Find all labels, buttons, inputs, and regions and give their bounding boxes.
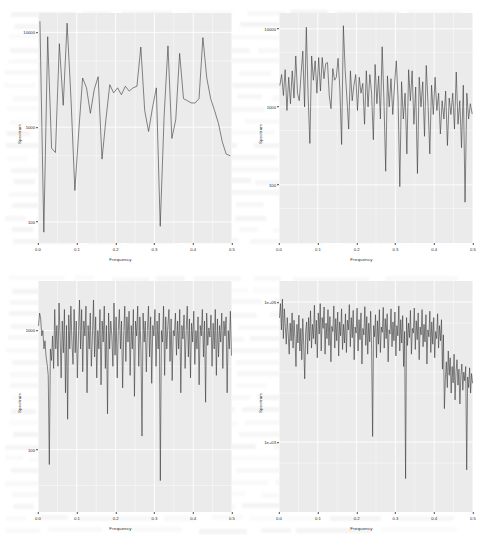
- y-tick-label: 10000: [264, 26, 279, 31]
- plot-area-top-right: 100001000100 0.00.10.20.30.40.5: [279, 13, 473, 243]
- x-axis-label-bottom-left: Frequency: [0, 526, 241, 531]
- x-tick-label: 0.1: [74, 243, 80, 252]
- x-tick-label: 0.0: [276, 243, 282, 252]
- x-tick-label: 0.0: [276, 512, 282, 521]
- x-tick-label: 0.4: [431, 512, 437, 521]
- x-tick-label: 0.5: [470, 243, 476, 252]
- x-tick-label: 0.1: [74, 512, 80, 521]
- x-tick-label: 0.2: [113, 512, 119, 521]
- x-tick-label: 0.3: [151, 512, 157, 521]
- panel-bottom-right: Spectrum 1e+051e+03 0.00.10.20.30.40.5 F…: [241, 268, 482, 537]
- series-plot-top-left: [38, 13, 232, 243]
- x-tick-label: 0.4: [431, 243, 437, 252]
- x-tick-label: 0.0: [35, 512, 41, 521]
- series-plot-bottom-right: [279, 281, 473, 512]
- y-axis-label-bottom-left: Spectrum: [17, 392, 22, 412]
- panel-top-left: Spectrum 100001000100 0.00.10.20.30.40.5…: [0, 0, 241, 268]
- series-plot-bottom-left: [38, 281, 232, 512]
- x-tick-label: 0.3: [151, 243, 157, 252]
- x-axis-label-top-left: Frequency: [0, 257, 241, 262]
- y-axis-label-bottom-right: Spectrum: [258, 392, 263, 412]
- x-tick-label: 0.1: [315, 512, 321, 521]
- spectrum-panel-grid: Spectrum 100001000100 0.00.10.20.30.40.5…: [0, 0, 482, 537]
- panel-top-right: Spectrum 100001000100 0.00.10.20.30.40.5…: [241, 0, 482, 268]
- x-tick-label: 0.5: [229, 243, 235, 252]
- x-tick-label: 0.5: [229, 512, 235, 521]
- y-axis-label-top-left: Spectrum: [17, 124, 22, 144]
- y-tick-label: 1e+05: [264, 300, 279, 305]
- plot-area-bottom-right: 1e+051e+03 0.00.10.20.30.40.5: [279, 281, 473, 512]
- y-tick-label: 1000: [267, 104, 279, 109]
- y-tick-label: 100: [269, 182, 279, 187]
- x-tick-label: 0.3: [392, 512, 398, 521]
- x-tick-label: 0.4: [190, 512, 196, 521]
- x-tick-label: 0.1: [315, 243, 321, 252]
- x-tick-label: 0.2: [354, 243, 360, 252]
- x-axis-label-top-right: Frequency: [241, 257, 482, 262]
- y-tick-label: 100: [28, 219, 38, 224]
- plot-area-top-left: 100001000100 0.00.10.20.30.40.5: [38, 13, 232, 243]
- y-axis-label-top-right: Spectrum: [258, 124, 263, 144]
- y-tick-label: 10000: [23, 30, 38, 35]
- y-tick-label: 1000: [26, 125, 38, 130]
- y-tick-label: 1000: [26, 328, 38, 333]
- y-tick-label: 1e+03: [264, 440, 279, 445]
- plot-area-bottom-left: 1000100 0.00.10.20.30.40.5: [38, 281, 232, 512]
- x-axis-label-bottom-right: Frequency: [241, 526, 482, 531]
- x-tick-label: 0.0: [35, 243, 41, 252]
- x-tick-label: 0.2: [354, 512, 360, 521]
- x-tick-label: 0.2: [113, 243, 119, 252]
- x-tick-label: 0.4: [190, 243, 196, 252]
- panel-bottom-left: Spectrum 1000100 0.00.10.20.30.40.5 Freq…: [0, 268, 241, 537]
- y-tick-label: 100: [28, 447, 38, 452]
- x-tick-label: 0.3: [392, 243, 398, 252]
- x-tick-label: 0.5: [470, 512, 476, 521]
- series-plot-top-right: [279, 13, 473, 243]
